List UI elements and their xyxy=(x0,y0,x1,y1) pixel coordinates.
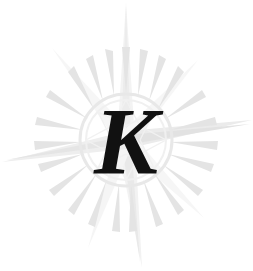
compass-rays-group xyxy=(2,2,252,268)
compass-rose-watermark xyxy=(0,0,253,271)
logo-canvas: K xyxy=(0,0,253,271)
ray-west xyxy=(2,131,126,162)
